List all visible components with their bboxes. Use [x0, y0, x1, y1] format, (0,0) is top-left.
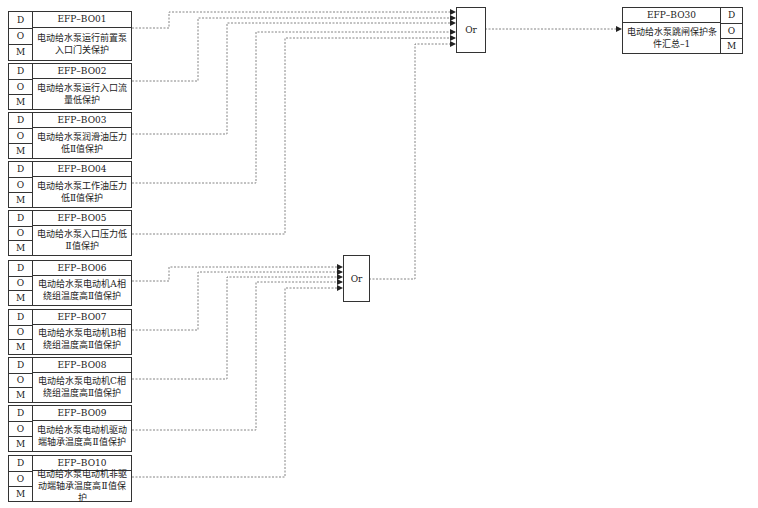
- m-cell: M: [9, 486, 32, 501]
- or-gate-main: Or: [456, 7, 486, 53]
- signal-box-bo08: DOM EFP–BO08电动给水泵电动机C相绕组温度高Ⅱ值保护: [8, 357, 132, 403]
- signal-code: EFP–BO04: [33, 162, 131, 177]
- signal-code: EFP–BO01: [33, 12, 131, 28]
- d-cell: D: [721, 8, 742, 23]
- signal-description: 电动给水泵润滑油压力低Ⅱ值保护: [33, 128, 131, 158]
- output-box-bo30: EFP–BO30电动给水泵跳闸保护条件汇总–1 DOM: [622, 7, 743, 54]
- m-cell: M: [9, 387, 32, 402]
- m-cell: M: [9, 143, 32, 158]
- signal-code: EFP–BO03: [33, 113, 131, 128]
- signal-description: 电动给水泵电动机A相绕组温度高Ⅱ值保护: [33, 276, 131, 305]
- m-cell: M: [721, 38, 742, 53]
- m-cell: M: [9, 290, 32, 305]
- signal-code: EFP–BO08: [33, 358, 131, 373]
- d-cell: D: [9, 162, 32, 177]
- signal-box-bo03: DOM EFP–BO03电动给水泵润滑油压力低Ⅱ值保护: [8, 112, 132, 159]
- or-gate-temperature: Or: [343, 255, 370, 302]
- m-cell: M: [9, 94, 32, 109]
- d-cell: D: [9, 64, 32, 79]
- m-cell: M: [9, 44, 32, 60]
- output-code: EFP–BO30: [623, 8, 720, 23]
- d-cell: D: [9, 261, 32, 276]
- d-cell: D: [9, 406, 32, 421]
- o-cell: O: [9, 28, 32, 44]
- signal-code: EFP–BO06: [33, 261, 131, 276]
- m-cell: M: [9, 240, 32, 255]
- output-description: 电动给水泵跳闸保护条件汇总–1: [623, 23, 720, 53]
- d-cell: D: [9, 211, 32, 226]
- signal-box-bo09: DOM EFP–BO09电动给水泵电动机驱动端轴承温度高Ⅱ值保护: [8, 405, 132, 452]
- signal-description: 电动给水泵电动机驱动端轴承温度高Ⅱ值保护: [33, 421, 131, 451]
- o-cell: O: [9, 421, 32, 436]
- signal-description: 电动给水泵入口压力低Ⅱ值保护: [33, 226, 131, 255]
- signal-description: 电动给水泵运行前置泵入口门关保护: [33, 28, 131, 60]
- signal-box-bo07: DOM EFP–BO07电动给水泵电动机B相绕组温度高Ⅱ值保护: [8, 309, 132, 355]
- signal-description: 电动给水泵电动机非驱动端轴承温度高Ⅱ值保护: [33, 471, 131, 501]
- signal-box-bo04: DOM EFP–BO04电动给水泵工作油压力低Ⅱ值保护: [8, 161, 132, 208]
- signal-description: 电动给水泵工作油压力低Ⅱ值保护: [33, 177, 131, 207]
- m-cell: M: [9, 339, 32, 354]
- d-cell: D: [9, 113, 32, 128]
- o-cell: O: [9, 471, 32, 486]
- o-cell: O: [9, 226, 32, 241]
- o-cell: O: [9, 373, 32, 388]
- o-cell: O: [9, 177, 32, 192]
- signal-box-bo10: DOM EFP–BO10电动给水泵电动机非驱动端轴承温度高Ⅱ值保护: [8, 455, 132, 502]
- signal-box-bo05: DOM EFP–BO05电动给水泵入口压力低Ⅱ值保护: [8, 210, 132, 256]
- signal-box-bo01: DOM EFP–BO01电动给水泵运行前置泵入口门关保护: [8, 11, 132, 61]
- d-cell: D: [9, 12, 32, 28]
- m-cell: M: [9, 192, 32, 207]
- d-cell: D: [9, 358, 32, 373]
- signal-code: EFP–BO07: [33, 310, 131, 325]
- o-cell: O: [9, 276, 32, 291]
- signal-box-bo02: DOM EFP–BO02电动给水泵运行入口流量低保护: [8, 63, 132, 110]
- signal-code: EFP–BO09: [33, 406, 131, 421]
- m-cell: M: [9, 436, 32, 451]
- o-cell: O: [9, 128, 32, 143]
- d-cell: D: [9, 456, 32, 471]
- signal-description: 电动给水泵运行入口流量低保护: [33, 79, 131, 109]
- o-cell: O: [9, 325, 32, 340]
- signal-description: 电动给水泵电动机C相绕组温度高Ⅱ值保护: [33, 373, 131, 402]
- o-cell: O: [9, 79, 32, 94]
- signal-box-bo06: DOM EFP–BO06电动给水泵电动机A相绕组温度高Ⅱ值保护: [8, 260, 132, 306]
- signal-description: 电动给水泵电动机B相绕组温度高Ⅱ值保护: [33, 325, 131, 354]
- o-cell: O: [721, 23, 742, 38]
- signal-code: EFP–BO02: [33, 64, 131, 79]
- d-cell: D: [9, 310, 32, 325]
- signal-code: EFP–BO05: [33, 211, 131, 226]
